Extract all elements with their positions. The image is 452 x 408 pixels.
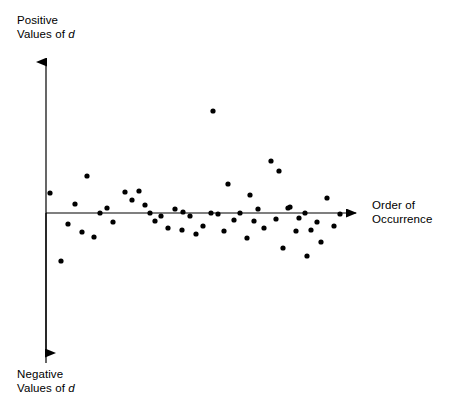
y-axis-positive-label-prefix: Values of <box>17 28 68 40</box>
data-point <box>293 228 298 233</box>
data-point <box>210 108 215 113</box>
data-point <box>72 201 77 206</box>
y-axis-negative-variable: d <box>68 382 75 394</box>
data-point <box>208 210 213 215</box>
data-point <box>251 218 256 223</box>
data-point <box>304 253 309 258</box>
data-point <box>97 210 102 215</box>
y-axis-negative-label-line1: Negative <box>17 368 75 382</box>
data-point <box>65 221 70 226</box>
data-point <box>200 223 205 228</box>
data-point <box>142 202 147 207</box>
data-point <box>296 215 301 220</box>
data-point <box>158 213 163 218</box>
data-point <box>91 234 96 239</box>
y-axis-positive-variable: d <box>68 28 75 40</box>
data-point <box>231 217 236 222</box>
data-point <box>180 209 185 214</box>
scatter-plot-figure: Positive Values of d Negative Values of … <box>0 0 452 408</box>
y-axis-positive-label: Positive Values of d <box>17 14 75 41</box>
data-point <box>187 213 192 218</box>
data-point <box>136 188 141 193</box>
x-axis-label-line1: Order of <box>372 199 432 213</box>
data-point <box>215 211 220 216</box>
data-point <box>276 168 281 173</box>
data-point <box>302 210 307 215</box>
y-axis-positive-label-line2: Values of d <box>17 28 75 42</box>
data-point <box>247 192 252 197</box>
data-point <box>337 211 342 216</box>
y-axis-negative-label: Negative Values of d <box>17 368 75 395</box>
data-point <box>225 181 230 186</box>
data-point <box>172 206 177 211</box>
data-point <box>152 218 157 223</box>
data-point <box>104 205 109 210</box>
data-point <box>84 173 89 178</box>
data-point <box>179 227 184 232</box>
data-point <box>165 225 170 230</box>
data-point <box>244 235 249 240</box>
data-point <box>268 158 273 163</box>
data-point <box>193 231 198 236</box>
data-point <box>280 245 285 250</box>
data-point <box>110 219 115 224</box>
data-point <box>129 197 134 202</box>
data-point <box>79 229 84 234</box>
data-point <box>255 206 260 211</box>
data-point <box>331 223 336 228</box>
data-point <box>237 210 242 215</box>
x-axis-label: Order of Occurrence <box>372 199 432 226</box>
data-point-group <box>47 108 342 263</box>
data-point <box>308 227 313 232</box>
data-point <box>261 225 266 230</box>
data-point <box>221 228 226 233</box>
data-point <box>58 258 63 263</box>
axes-group <box>46 62 356 363</box>
data-point <box>47 190 52 195</box>
data-point <box>314 219 319 224</box>
y-axis-negative-label-line2: Values of d <box>17 382 75 396</box>
y-axis-negative-label-prefix: Values of <box>17 382 68 394</box>
y-axis-positive-label-line1: Positive <box>17 14 75 28</box>
data-point <box>324 195 329 200</box>
data-point <box>147 210 152 215</box>
x-axis-label-line2: Occurrence <box>372 213 432 227</box>
data-point <box>122 189 127 194</box>
data-point <box>287 204 292 209</box>
data-point <box>318 239 323 244</box>
data-point <box>273 216 278 221</box>
